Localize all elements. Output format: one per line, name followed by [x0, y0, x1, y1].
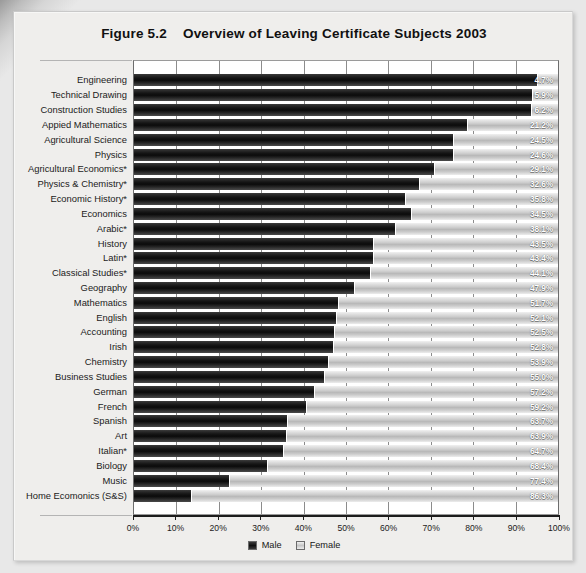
- bar-segment-female: 52.8%: [334, 341, 558, 353]
- bar-row: 59.2%: [134, 401, 558, 413]
- bar-row: 21.2%: [134, 119, 558, 131]
- category-label: Italian*: [98, 444, 127, 458]
- category-label: Latin*: [103, 251, 127, 265]
- bar-value-label: 21.2%: [530, 120, 553, 130]
- bar-segment-female: 44.1%: [371, 267, 558, 279]
- bar-row: 55.0%: [134, 371, 558, 383]
- bar-value-label: 51.7%: [530, 298, 553, 308]
- x-axis-tick: [431, 515, 432, 520]
- category-label: Art: [115, 429, 127, 443]
- bar-segment-male: [134, 282, 355, 294]
- bar-value-label: 35.8%: [530, 194, 553, 204]
- bar-value-label: 57.2%: [530, 387, 553, 397]
- bar-segment-male: [134, 371, 325, 383]
- x-axis-tick-label: 70%: [423, 523, 440, 533]
- x-axis-tick: [559, 515, 560, 520]
- bar-segment-male: [134, 149, 454, 161]
- category-label: Economics: [81, 207, 127, 221]
- category-label: Technical Drawing: [51, 88, 127, 102]
- category-label: Appied Mathematics: [42, 118, 127, 132]
- bar-value-label: 43.4%: [530, 253, 553, 263]
- category-label: Spanish: [93, 414, 127, 428]
- bar-segment-male: [134, 193, 406, 205]
- bar-segment-male: [134, 89, 533, 101]
- bar-segment-male: [134, 445, 284, 457]
- bar-row: 24.5%: [134, 134, 558, 146]
- bar-row: 51.7%: [134, 297, 558, 309]
- bar-segment-female: 29.1%: [435, 163, 558, 175]
- bar-segment-male: [134, 238, 374, 250]
- bar-row: 47.9%: [134, 282, 558, 294]
- bar-row: 53.9%: [134, 356, 558, 368]
- bar-segment-male: [134, 341, 334, 353]
- bar-value-label: 63.7%: [530, 416, 553, 426]
- bar-segment-female: 38.1%: [396, 223, 558, 235]
- bar-row: 34.5%: [134, 208, 558, 220]
- bar-segment-female: 63.9%: [287, 430, 558, 442]
- bar-value-label: 4.7%: [534, 75, 553, 85]
- category-label: Construction Studies: [40, 103, 127, 117]
- bar-segment-female: 57.2%: [315, 386, 558, 398]
- bar-segment-female: 52.5%: [335, 326, 558, 338]
- bar-segment-female: 21.2%: [468, 119, 558, 131]
- figure-card: Figure 5.2Overview of Leaving Certificat…: [13, 11, 573, 561]
- bar-segment-male: [134, 267, 371, 279]
- bar-segment-female: 47.9%: [355, 282, 558, 294]
- x-axis-tick: [133, 515, 134, 520]
- bar-segment-male: [134, 252, 374, 264]
- bar-row: 44.1%: [134, 267, 558, 279]
- bar-row: 35.8%: [134, 193, 558, 205]
- category-label: Business Studies: [55, 370, 127, 384]
- category-label: Music: [103, 474, 127, 488]
- category-label: Chemistry: [85, 355, 127, 369]
- bar-row: 64.7%: [134, 445, 558, 457]
- bar-row: 77.4%: [134, 475, 558, 487]
- bar-segment-male: [134, 490, 192, 502]
- bar-segment-male: [134, 119, 468, 131]
- category-label: Irish: [109, 340, 127, 354]
- legend-swatch-female-icon: [296, 541, 305, 550]
- bar-value-label: 24.6%: [530, 150, 553, 160]
- page-title: Figure 5.2Overview of Leaving Certificat…: [14, 26, 573, 41]
- bar-value-label: 44.1%: [530, 268, 553, 278]
- category-label: History: [98, 237, 127, 251]
- bar-segment-female: 24.6%: [454, 149, 558, 161]
- category-label: Physics & Chemistry*: [37, 177, 127, 191]
- bar-segment-male: [134, 415, 288, 427]
- bar-value-label: 6.2%: [534, 105, 553, 115]
- x-axis-tick: [346, 515, 347, 520]
- bar-row: 57.2%: [134, 386, 558, 398]
- bar-row: 52.1%: [134, 312, 558, 324]
- bar-segment-male: [134, 356, 329, 368]
- bar-segment-female: 24.5%: [454, 134, 558, 146]
- bar-segment-female: 68.4%: [268, 460, 558, 472]
- bars-area: 4.7%5.9%6.2%21.2%24.5%24.6%29.1%32.6%35.…: [134, 73, 558, 503]
- bar-segment-female: 5.9%: [533, 89, 558, 101]
- x-axis-tick-label: 100%: [548, 523, 570, 533]
- category-label: Physics: [95, 148, 127, 162]
- chart-plot-wrapper: EngineeringTechnical DrawingConstruction…: [14, 56, 573, 526]
- category-label: Home Ecomonics (S&S): [26, 489, 127, 503]
- bars-panel: 4.7%5.9%6.2%21.2%24.5%24.6%29.1%32.6%35.…: [133, 60, 559, 515]
- bar-segment-male: [134, 430, 287, 442]
- bar-segment-male: [134, 208, 412, 220]
- x-axis-tick-label: 0%: [127, 523, 139, 533]
- bar-segment-female: 35.8%: [406, 193, 558, 205]
- bar-row: 43.4%: [134, 252, 558, 264]
- bar-value-label: 52.1%: [530, 313, 553, 323]
- bar-segment-female: 53.9%: [329, 356, 558, 368]
- x-axis-tick-label: 90%: [508, 523, 525, 533]
- bar-segment-male: [134, 178, 420, 190]
- bar-value-label: 59.2%: [530, 402, 553, 412]
- bar-segment-female: 64.7%: [284, 445, 558, 457]
- category-label: Agricultural Science: [44, 133, 127, 147]
- bar-value-label: 47.9%: [530, 283, 553, 293]
- figure-title-text: Overview of Leaving Certificate Subjects…: [183, 26, 487, 41]
- category-label: Arabic*: [97, 222, 127, 236]
- legend-label-female: Female: [310, 540, 341, 550]
- bar-value-label: 77.4%: [530, 476, 553, 486]
- bar-row: 43.5%: [134, 238, 558, 250]
- x-axis-tick: [175, 515, 176, 520]
- bar-value-label: 63.9%: [530, 431, 553, 441]
- x-axis-tick-label: 30%: [252, 523, 269, 533]
